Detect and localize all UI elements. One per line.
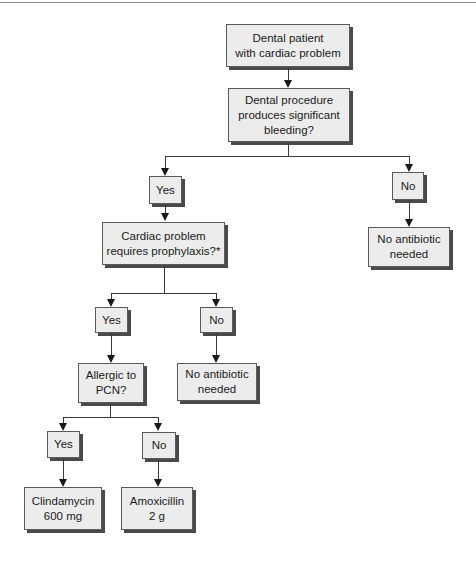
arrow-down-icon	[161, 213, 169, 221]
connector	[288, 142, 289, 156]
node-question-prophylaxis: Cardiac problem requires prophylaxis?*	[102, 222, 225, 265]
arrow-down-icon	[212, 355, 220, 363]
connector	[63, 417, 159, 418]
arrow-down-icon	[59, 423, 67, 431]
arrow-down-icon	[59, 479, 67, 487]
node-no-antibiotic-2: No antibiotic needed	[177, 363, 257, 401]
node-start: Dental patient with cardiac problem	[226, 24, 350, 67]
arrow-down-icon	[107, 299, 115, 307]
connector	[216, 333, 217, 356]
connector	[165, 156, 410, 157]
node-amoxicillin: Amoxicillin 2 g	[121, 487, 193, 530]
node-bleeding-yes: Yes	[149, 176, 182, 204]
connector	[63, 458, 64, 480]
node-prophylaxis-no: No	[200, 307, 233, 333]
node-bleeding-no: No	[392, 172, 424, 200]
node-prophylaxis-yes: Yes	[95, 307, 128, 333]
connector	[111, 333, 112, 356]
node-clindamycin: Clindamycin 600 mg	[24, 487, 102, 530]
connector	[288, 67, 289, 81]
arrow-down-icon	[154, 423, 162, 431]
arrow-down-icon	[405, 164, 413, 172]
node-allergic-yes: Yes	[47, 431, 80, 458]
arrow-down-icon	[161, 168, 169, 176]
connector	[164, 265, 165, 293]
connector	[158, 459, 159, 480]
node-question-allergic: Allergic to PCN?	[78, 363, 144, 403]
node-question-bleeding: Dental procedure produces significant bl…	[228, 88, 350, 142]
connector	[110, 403, 111, 417]
connector	[111, 293, 217, 294]
arrow-down-icon	[284, 80, 292, 88]
arrow-down-icon	[107, 355, 115, 363]
arrow-down-icon	[405, 219, 413, 227]
arrow-down-icon	[212, 299, 220, 307]
node-allergic-no: No	[142, 432, 176, 459]
page-top-rule	[0, 2, 476, 3]
arrow-down-icon	[154, 479, 162, 487]
node-no-antibiotic-1: No antibiotic needed	[368, 227, 450, 267]
connector	[409, 200, 410, 220]
